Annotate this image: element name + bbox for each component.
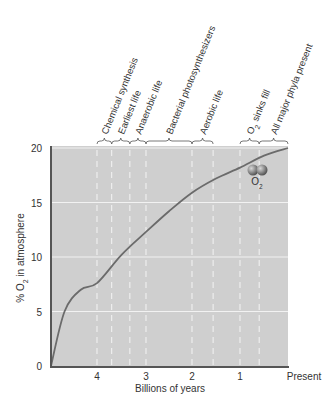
y-axis-title: % O2 in atmosphere (15, 213, 29, 303)
o2-atmosphere-chart: 05101520 4321Present Billions of years %… (0, 0, 323, 403)
era-bracket: Aerobic life (192, 88, 225, 144)
era-bracket: O2 sinks fill (240, 88, 274, 144)
y-tick-label: 5 (36, 307, 42, 318)
x-tick-label: Present (287, 371, 322, 382)
x-tick-label: 2 (189, 371, 195, 382)
x-axis-title: Billions of years (135, 383, 205, 394)
x-axis-ticks: 4321Present (94, 371, 321, 382)
y-axis-ticks: 05101520 (31, 143, 43, 372)
x-tick-label: 4 (94, 371, 100, 382)
era-label: All major phyla present (268, 42, 315, 136)
era-brackets: Chemical synthesisEarliest lifeAnaerobic… (97, 24, 315, 144)
y-tick-label: 15 (31, 198, 43, 209)
y-tick-label: 0 (36, 361, 42, 372)
y-tick-label: 10 (31, 252, 43, 263)
x-tick-label: 1 (237, 371, 243, 382)
era-label: Aerobic life (197, 88, 225, 136)
y-tick-label: 20 (31, 143, 43, 154)
x-tick-label: 3 (143, 371, 149, 382)
era-label: Anaerobic life (133, 78, 165, 135)
